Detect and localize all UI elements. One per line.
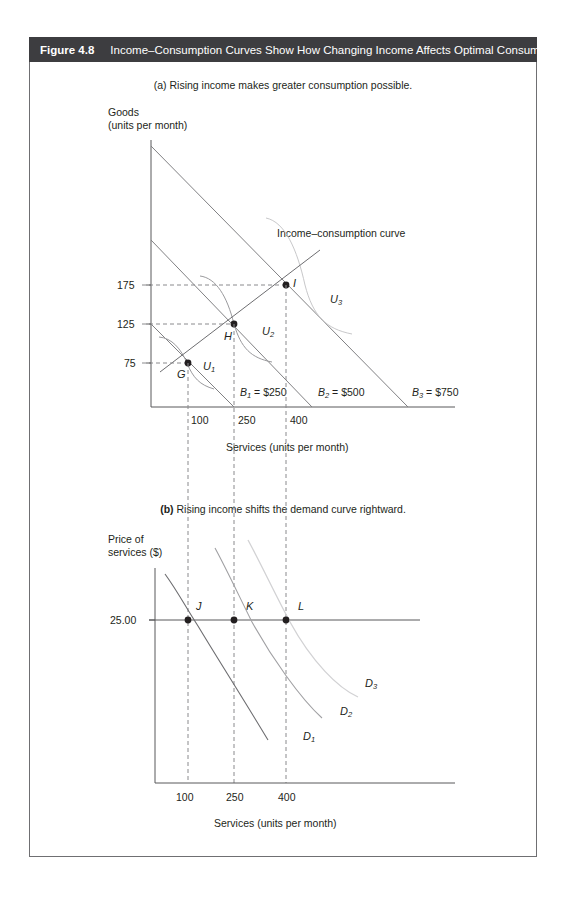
- budget-label-1-value: = $250: [254, 386, 286, 398]
- panel-b-xtick-100: 100: [176, 791, 194, 803]
- d3-symbol: D: [365, 677, 373, 689]
- u2-sub: 2: [270, 330, 274, 339]
- budget-label-1-symbol: B: [240, 386, 247, 398]
- figure-root: Figure 4.8 Income–Consumption Curves Sho…: [0, 0, 566, 900]
- budget-label-2-sub: 2: [325, 391, 329, 400]
- point-label-j: J: [196, 600, 202, 612]
- panel-a-x-axis-title: Services (units per month): [226, 441, 349, 454]
- panel-b-y-axis-title-line2: services ($): [108, 546, 162, 559]
- panel-a-ytick-125: 125: [117, 318, 135, 330]
- panel-b-xtick-250: 250: [226, 791, 244, 803]
- panel-a-xtick-250: 250: [238, 414, 256, 426]
- d1-sub: 1: [311, 735, 315, 744]
- panel-b-y-axis-title: Price of services ($): [108, 533, 162, 559]
- panel-a-ytick-175: 175: [117, 279, 135, 291]
- panel-b-heading-prefix: (b): [160, 503, 173, 515]
- panel-a-heading-text: (a) Rising income makes greater consumpt…: [154, 79, 413, 91]
- d2-sub: 2: [348, 710, 352, 719]
- panel-b-ytick-2500: 25.00: [110, 614, 136, 626]
- point-label-k: K: [246, 600, 253, 612]
- panel-b-xtick-400: 400: [278, 791, 296, 803]
- demand-curve-label-d3: D3: [365, 677, 377, 689]
- point-label-g: G: [177, 368, 186, 380]
- panel-b-heading: (b) Rising income shifts the demand curv…: [0, 503, 566, 515]
- point-label-i: I: [293, 277, 296, 289]
- indifference-curve-label-u1: U1: [203, 360, 215, 372]
- panel-b-heading-body: Rising income shifts the demand curve ri…: [176, 503, 405, 515]
- budget-line-label-1: B1 = $250: [240, 386, 287, 398]
- budget-label-1-sub: 1: [247, 391, 251, 400]
- d2-symbol: D: [340, 705, 348, 717]
- panel-a-xtick-100: 100: [191, 414, 209, 426]
- budget-line-label-2: B2 = $500: [318, 386, 365, 398]
- u2-symbol: U: [262, 325, 270, 337]
- indifference-curve-label-u2: U2: [262, 325, 274, 337]
- budget-label-3-value: = $750: [426, 386, 458, 398]
- d3-sub: 3: [373, 682, 377, 691]
- u1-sub: 1: [211, 365, 215, 374]
- u3-sub: 3: [338, 298, 342, 307]
- panel-a-y-axis-title-line1: Goods: [108, 106, 187, 119]
- point-label-h: H: [224, 330, 232, 342]
- budget-label-3-symbol: B: [412, 386, 419, 398]
- budget-line-label-3: B3 = $750: [412, 386, 459, 398]
- figure-number: Figure 4.8: [40, 44, 94, 56]
- panel-b-x-axis-title: Services (units per month): [214, 817, 337, 830]
- budget-label-3-sub: 3: [419, 391, 423, 400]
- figure-header: Figure 4.8 Income–Consumption Curves Sho…: [29, 37, 537, 62]
- indifference-curve-label-u3: U3: [330, 293, 342, 305]
- panel-a-y-axis-title: Goods (units per month): [108, 106, 187, 132]
- income-consumption-curve-annotation: Income–consumption curve: [277, 227, 405, 239]
- demand-curve-label-d1: D1: [303, 730, 315, 742]
- u3-symbol: U: [330, 293, 338, 305]
- d1-symbol: D: [303, 730, 311, 742]
- budget-label-2-symbol: B: [318, 386, 325, 398]
- demand-curve-label-d2: D2: [340, 705, 352, 717]
- panel-a-heading: (a) Rising income makes greater consumpt…: [0, 79, 566, 91]
- panel-a-xtick-400: 400: [290, 414, 308, 426]
- figure-title: Income–Consumption Curves Show How Chang…: [110, 44, 564, 56]
- panel-a-y-axis-title-line2: (units per month): [108, 119, 187, 132]
- panel-a-ytick-75: 75: [124, 357, 136, 369]
- u1-symbol: U: [203, 360, 211, 372]
- budget-label-2-value: = $500: [332, 386, 364, 398]
- point-label-l: L: [298, 600, 304, 612]
- panel-b-y-axis-title-line1: Price of: [108, 533, 162, 546]
